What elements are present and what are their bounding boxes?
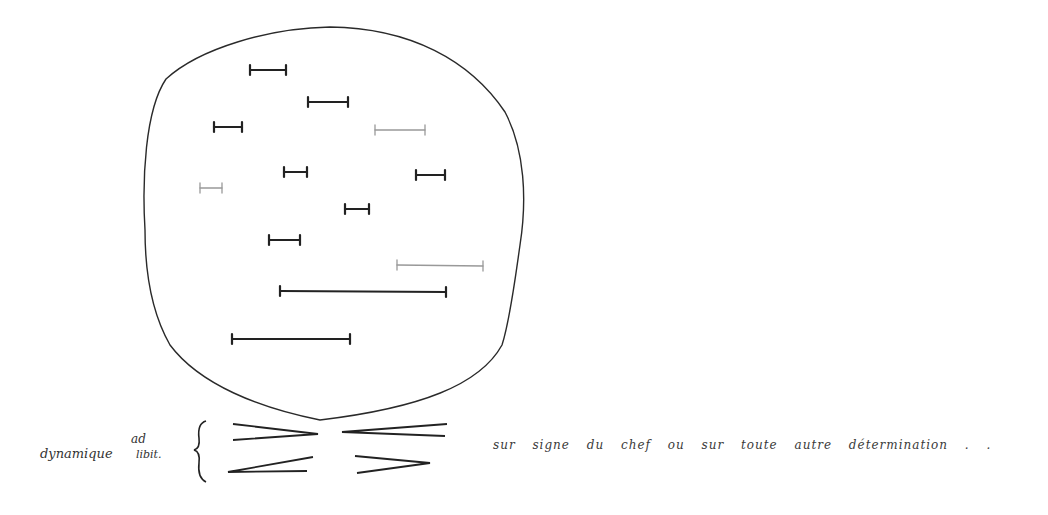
duration-segment [214, 122, 242, 132]
hairpin-decrescendo-bottom-right [355, 456, 430, 473]
duration-segment [269, 235, 300, 245]
duration-segment [250, 65, 286, 75]
hairpin-crescendo-top-right [342, 424, 447, 436]
duration-segments [200, 65, 483, 344]
brace-icon [194, 421, 206, 482]
duration-segment [200, 183, 222, 193]
duration-segment [397, 260, 483, 271]
performance-instruction: sur signe du chef ou sur toute autre dét… [493, 438, 991, 452]
duration-segment [284, 167, 307, 177]
dynamics-label: dynamique [40, 446, 113, 461]
ad-lib-label-bottom: libit. [136, 448, 162, 461]
hairpin-crescendo-bottom-left [228, 457, 313, 472]
duration-segment [308, 97, 348, 107]
circle-outline [144, 27, 524, 420]
duration-segment [345, 204, 369, 214]
ad-lib-label-top: ad [131, 432, 146, 446]
duration-segment [232, 334, 350, 344]
hairpin-decrescendo-top-left [233, 424, 318, 440]
duration-segment [375, 125, 425, 135]
duration-segment [280, 286, 446, 297]
duration-segment [416, 170, 445, 180]
